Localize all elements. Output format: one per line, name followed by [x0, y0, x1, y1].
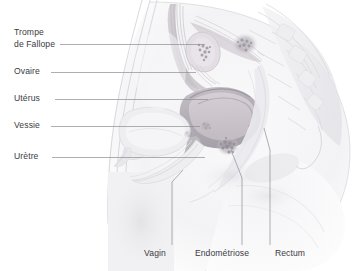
label-trompe-de-fallope-line2: de Fallope	[14, 38, 55, 50]
label-trompe-de-fallope-line1: Trompe	[14, 26, 55, 38]
anatomy-figure: Trompe de Fallope Ovaire Utérus Vessie U…	[0, 0, 358, 271]
label-rectum: Rectum	[275, 248, 305, 259]
label-uretre: Urètre	[14, 151, 38, 162]
label-vessie: Vessie	[14, 120, 40, 131]
leader-vagin	[172, 170, 183, 245]
label-ovaire: Ovaire	[14, 66, 40, 77]
label-trompe-de-fallope: Trompe de Fallope	[14, 26, 55, 50]
label-uterus: Utérus	[14, 93, 40, 104]
leader-endometriose	[231, 150, 242, 245]
label-vagin: Vagin	[144, 248, 166, 259]
label-endometriose: Endométriose	[195, 248, 249, 259]
leader-rectum	[264, 128, 270, 245]
